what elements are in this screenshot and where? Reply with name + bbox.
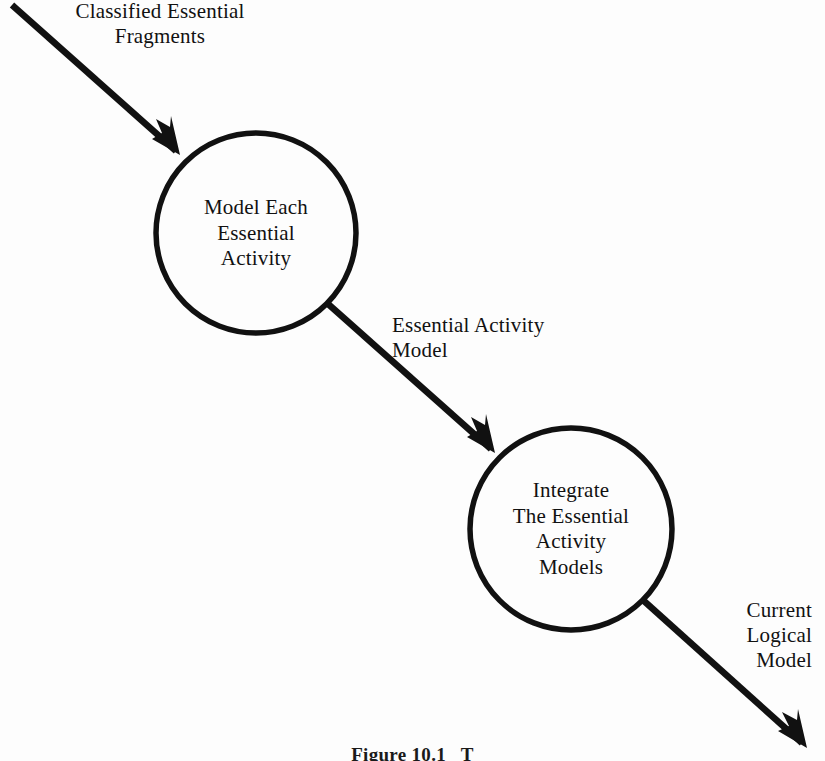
flow-label-current-logical-model: Current Logical Model — [634, 598, 812, 673]
flow-label-classified-essential-fragments: Classified Essential Fragments — [64, 0, 256, 49]
figure-container: Classified Essential Fragments Essential… — [0, 0, 825, 761]
figure-caption: Figure 10.1 T — [0, 744, 825, 761]
flow-label-essential-activity-model: Essential Activity Model — [392, 313, 602, 363]
node-label-model-each-essential-activity: Model Each Essential Activity — [156, 195, 356, 272]
node-label-integrate-the-essential-activity-models: Integrate The Essential Activity Models — [471, 478, 671, 580]
